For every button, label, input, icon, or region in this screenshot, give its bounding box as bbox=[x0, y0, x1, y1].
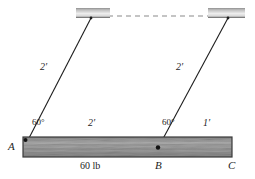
ceiling-support-left bbox=[76, 8, 110, 18]
angle-label-b: 60° bbox=[162, 118, 175, 127]
cable-right bbox=[158, 18, 228, 148]
span-label-bc: 1′ bbox=[203, 118, 210, 128]
figure-canvas: 2′ 2′ 60° 60° 2′ 1′ A B C 60 lb bbox=[0, 0, 255, 179]
statics-diagram bbox=[0, 0, 255, 179]
point-b-dot bbox=[156, 145, 160, 149]
load-label: 60 lb bbox=[80, 161, 100, 171]
point-label-c: C bbox=[228, 160, 235, 171]
beam bbox=[23, 137, 232, 157]
point-label-a: A bbox=[8, 141, 15, 152]
cable-left-length-label: 2′ bbox=[40, 62, 47, 72]
cable-right-length-label: 2′ bbox=[176, 62, 183, 72]
point-a-dot bbox=[24, 138, 28, 142]
cable-right-anchor-dot bbox=[227, 17, 230, 20]
span-label-ab: 2′ bbox=[88, 118, 95, 128]
ceiling-support-right bbox=[208, 8, 245, 18]
point-label-b: B bbox=[155, 160, 162, 171]
cable-left-anchor-dot bbox=[90, 17, 93, 20]
angle-label-a: 60° bbox=[32, 118, 45, 127]
